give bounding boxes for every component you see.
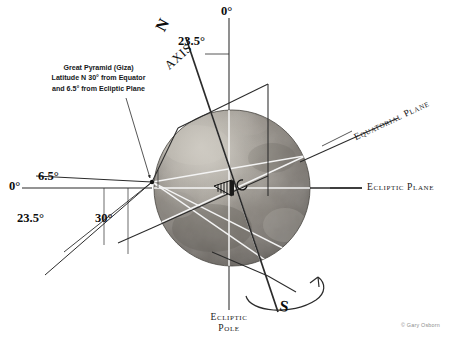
callout-line-1: Great Pyramid (Giza) [41, 63, 156, 73]
ecliptic-plane-label: Ecliptic Plane [367, 181, 434, 192]
axis-tilt-label: 23.5° [178, 34, 205, 49]
equatorial-label-leader [322, 131, 352, 146]
ray-30-degrees [45, 182, 152, 275]
lower-wedge-edge-a [268, 276, 296, 292]
callout-line-2: Latitude N 30° from Equator [41, 73, 156, 83]
rotation-arrow-head [310, 277, 319, 287]
giza-vertex-point [150, 180, 154, 184]
ecliptic-pole-line-2: Pole [189, 322, 269, 333]
giza-callout: Great Pyramid (Giza) Latitude N 30° from… [41, 63, 156, 94]
ecliptic-pole-label: Ecliptic Pole [189, 311, 269, 334]
copyright-credit: © Gary Osborn [401, 322, 440, 328]
diagram-canvas: Great Pyramid (Giza) Latitude N 30° from… [0, 0, 460, 353]
diagram-vector-layer [0, 0, 460, 353]
equatorial-plane-line-a [118, 228, 152, 243]
zero-degree-top-label: 0° [221, 4, 232, 19]
ecliptic-pole-line-1: Ecliptic [189, 311, 269, 322]
callout-leader-line [126, 98, 150, 178]
angle-23-5-label: 23.5° [17, 211, 44, 226]
zero-degree-left-label: 0° [9, 179, 20, 194]
callout-line-3: and 6.5° from Ecliptic Plane [41, 84, 156, 94]
angle-30-label: 30° [95, 211, 113, 226]
angle-6-5-label: 6.5° [38, 169, 59, 184]
